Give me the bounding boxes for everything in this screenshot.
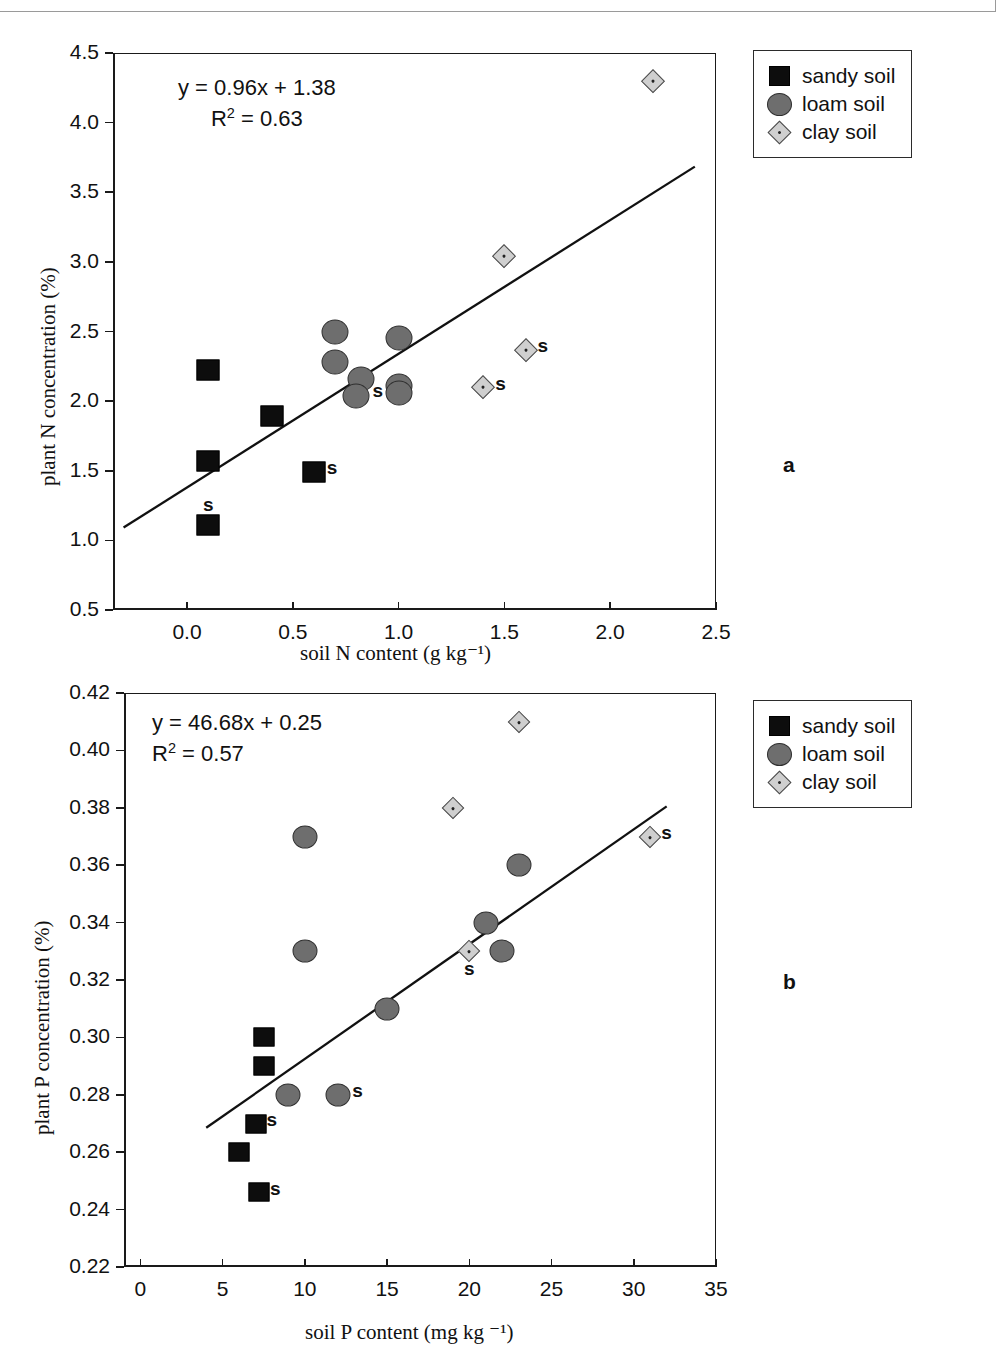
significance-marker: s bbox=[464, 958, 475, 980]
data-point-circle bbox=[292, 940, 317, 963]
y-tick-label-b: 0.40 bbox=[30, 737, 110, 761]
data-point-square bbox=[253, 1057, 274, 1076]
diamond-icon bbox=[766, 124, 792, 141]
data-point-square bbox=[245, 1114, 266, 1133]
x-tick-label-a: 2.5 bbox=[671, 620, 761, 644]
data-point-square bbox=[303, 462, 326, 483]
x-tick-label-b: 35 bbox=[671, 1277, 761, 1301]
legend-label: sandy soil bbox=[802, 714, 895, 738]
data-point-circle bbox=[292, 825, 317, 848]
data-point-square bbox=[197, 515, 220, 536]
y-tick-label-a: 4.5 bbox=[19, 40, 99, 64]
diamond-icon bbox=[766, 774, 792, 791]
y-tick-label-b: 0.38 bbox=[30, 795, 110, 819]
legend-item-circle[interactable]: loam soil bbox=[766, 90, 895, 118]
data-point-square bbox=[229, 1143, 250, 1162]
legend-item-square[interactable]: sandy soil bbox=[766, 62, 895, 90]
y-tick-label-b: 0.26 bbox=[30, 1139, 110, 1163]
y-tick-label-b: 0.30 bbox=[30, 1024, 110, 1048]
y-tick-label-b: 0.32 bbox=[30, 967, 110, 991]
x-tick-label-a: 1.5 bbox=[459, 620, 549, 644]
data-point-circle bbox=[276, 1083, 301, 1106]
square-icon bbox=[766, 66, 792, 86]
x-tick-label-b: 20 bbox=[424, 1277, 514, 1301]
x-tick-label-a: 0.5 bbox=[248, 620, 338, 644]
y-tick-b bbox=[116, 1037, 124, 1039]
data-point-circle bbox=[322, 319, 349, 344]
significance-marker: s bbox=[495, 373, 506, 395]
y-tick-label-b: 0.42 bbox=[30, 680, 110, 704]
y-tick-a bbox=[105, 540, 113, 542]
legend-item-circle[interactable]: loam soil bbox=[766, 740, 895, 768]
y-tick-label-a: 3.0 bbox=[19, 249, 99, 273]
legend-item-diamond[interactable]: clay soil bbox=[766, 118, 895, 146]
data-point-square bbox=[260, 406, 283, 427]
significance-marker: s bbox=[373, 380, 384, 402]
y-tick-a bbox=[105, 122, 113, 124]
data-point-square bbox=[197, 451, 220, 472]
y-tick-label-a: 4.0 bbox=[19, 110, 99, 134]
circle-icon bbox=[766, 93, 792, 116]
y-tick-b bbox=[116, 1209, 124, 1211]
legend-panel-b: sandy soilloam soilclay soil bbox=[753, 700, 912, 808]
legend-label: clay soil bbox=[802, 770, 877, 794]
y-tick-label-b: 0.28 bbox=[30, 1082, 110, 1106]
data-point-square bbox=[253, 1028, 274, 1047]
x-tick-label-b: 0 bbox=[95, 1277, 185, 1301]
plot-area-a: sssss bbox=[113, 53, 716, 610]
legend-item-square[interactable]: sandy soil bbox=[766, 712, 895, 740]
x-tick-label-b: 15 bbox=[342, 1277, 432, 1301]
regression-annotation-b: y = 46.68x + 0.25 R2 = 0.57 bbox=[152, 707, 322, 770]
legend-label: loam soil bbox=[802, 742, 885, 766]
figure-page: sssss plant N concentration (%) soil N c… bbox=[0, 0, 996, 1354]
significance-marker: s bbox=[203, 494, 214, 516]
panel-b: sssss plant P concentration (%) soil P c… bbox=[0, 660, 996, 1354]
panel-label-b: b bbox=[783, 970, 796, 994]
y-tick-b bbox=[116, 864, 124, 866]
data-point-circle bbox=[322, 350, 349, 375]
legend-label: clay soil bbox=[802, 120, 877, 144]
significance-marker: s bbox=[537, 335, 548, 357]
equation-line-a: y = 0.96x + 1.38 bbox=[178, 72, 336, 103]
x-tick-label-b: 25 bbox=[507, 1277, 597, 1301]
y-tick-b bbox=[116, 979, 124, 981]
legend-item-diamond[interactable]: clay soil bbox=[766, 768, 895, 796]
y-tick-label-b: 0.24 bbox=[30, 1197, 110, 1221]
data-point-circle bbox=[490, 940, 515, 963]
y-tick-a bbox=[105, 52, 113, 54]
x-tick-label-a: 0.0 bbox=[142, 620, 232, 644]
legend-panel-a: sandy soilloam soilclay soil bbox=[753, 50, 912, 158]
y-tick-a bbox=[105, 261, 113, 263]
y-tick-b bbox=[116, 1266, 124, 1268]
panel-label-a: a bbox=[783, 453, 795, 477]
y-tick-b bbox=[116, 807, 124, 809]
plot-area-b: sssss bbox=[124, 693, 716, 1267]
significance-marker: s bbox=[327, 457, 338, 479]
data-point-square bbox=[248, 1183, 269, 1202]
data-point-circle bbox=[375, 997, 400, 1020]
panel-a: sssss plant N concentration (%) soil N c… bbox=[0, 0, 996, 660]
x-tick-label-a: 2.0 bbox=[565, 620, 655, 644]
r2-line-a: R2 = 0.63 bbox=[178, 103, 336, 135]
x-tick-label-a: 1.0 bbox=[354, 620, 444, 644]
x-tick-label-b: 5 bbox=[178, 1277, 268, 1301]
legend-label: sandy soil bbox=[802, 64, 895, 88]
regression-annotation-a: y = 0.96x + 1.38 R2 = 0.63 bbox=[178, 72, 336, 135]
y-tick-label-a: 2.5 bbox=[19, 319, 99, 343]
y-tick-label-a: 3.5 bbox=[19, 179, 99, 203]
data-point-circle bbox=[506, 854, 531, 877]
significance-marker: s bbox=[352, 1080, 363, 1102]
legend-label: loam soil bbox=[802, 92, 885, 116]
y-tick-label-b: 0.22 bbox=[30, 1254, 110, 1278]
data-point-circle bbox=[343, 383, 370, 408]
y-tick-label-a: 1.0 bbox=[19, 527, 99, 551]
data-point-circle bbox=[325, 1083, 350, 1106]
x-tick-label-b: 10 bbox=[260, 1277, 350, 1301]
y-tick-b bbox=[116, 1094, 124, 1096]
y-tick-a bbox=[105, 609, 113, 611]
data-point-circle bbox=[385, 380, 412, 405]
data-point-circle bbox=[473, 911, 498, 934]
x-axis-title-b: soil P content (mg kg ⁻¹) bbox=[305, 1320, 513, 1345]
y-tick-label-a: 0.5 bbox=[19, 597, 99, 621]
y-tick-label-a: 2.0 bbox=[19, 388, 99, 412]
